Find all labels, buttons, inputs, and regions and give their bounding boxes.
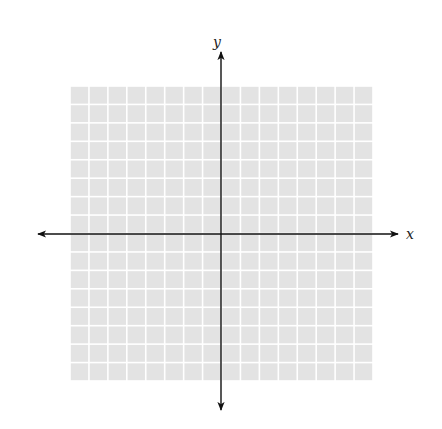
grid-cell [241, 197, 258, 214]
grid-cell [241, 271, 258, 288]
grid-cell [355, 161, 372, 178]
grid-cell [203, 234, 220, 251]
grid-cell [203, 179, 220, 196]
grid-cell [298, 179, 315, 196]
grid-cell [128, 197, 145, 214]
grid-cell [90, 105, 107, 122]
grid-cell [279, 179, 296, 196]
grid-cell [128, 308, 145, 325]
grid-cell [165, 345, 182, 362]
grid-cell [336, 161, 353, 178]
grid-cell [71, 142, 88, 159]
grid-cell [71, 253, 88, 270]
grid-cell [109, 216, 126, 233]
grid-cell [279, 326, 296, 343]
grid-cell [336, 363, 353, 380]
grid-cell [336, 197, 353, 214]
grid-cell [279, 363, 296, 380]
grid-cell [222, 345, 239, 362]
grid-cell [90, 271, 107, 288]
grid-cell [147, 216, 164, 233]
grid-cell [147, 179, 164, 196]
grid-cell [355, 216, 372, 233]
grid-cell [222, 197, 239, 214]
grid-cell [184, 216, 201, 233]
grid-cell [317, 124, 334, 141]
grid-cell [241, 345, 258, 362]
grid-cell [317, 253, 334, 270]
grid-cell [203, 308, 220, 325]
grid-cell [184, 197, 201, 214]
grid-cell [128, 363, 145, 380]
grid-cell [71, 271, 88, 288]
grid-cell [355, 253, 372, 270]
grid-cell [203, 345, 220, 362]
grid-cell [355, 124, 372, 141]
grid-cell [279, 345, 296, 362]
grid-cell [71, 345, 88, 362]
grid-cell [109, 326, 126, 343]
grid-cell [298, 161, 315, 178]
grid-cell [222, 234, 239, 251]
grid-cell [317, 216, 334, 233]
grid-cell [260, 326, 277, 343]
grid-cell [184, 142, 201, 159]
grid-cell [260, 345, 277, 362]
grid-cell [71, 105, 88, 122]
grid-cell [336, 290, 353, 307]
grid-cell [241, 216, 258, 233]
grid-cell [109, 290, 126, 307]
grid-cell [317, 105, 334, 122]
grid-cell [317, 363, 334, 380]
grid-cell [90, 326, 107, 343]
grid-cell [128, 290, 145, 307]
grid-cell [317, 345, 334, 362]
grid-cell [147, 253, 164, 270]
grid-cell [128, 124, 145, 141]
grid-cell [336, 179, 353, 196]
grid-cell [165, 253, 182, 270]
grid-cell [165, 290, 182, 307]
grid-cell [241, 326, 258, 343]
grid-cell [203, 87, 220, 104]
grid-cell [90, 124, 107, 141]
grid-cell [184, 87, 201, 104]
grid-cell [222, 87, 239, 104]
grid-cell [336, 142, 353, 159]
grid-cell [279, 308, 296, 325]
grid-cell [355, 197, 372, 214]
grid-cell [109, 345, 126, 362]
grid-cell [165, 142, 182, 159]
grid-cell [109, 179, 126, 196]
grid-cell [241, 308, 258, 325]
grid-cell [71, 87, 88, 104]
grid-cell [355, 363, 372, 380]
grid-cell [147, 271, 164, 288]
grid-cell [336, 271, 353, 288]
grid-cell [336, 124, 353, 141]
grid-cell [147, 161, 164, 178]
grid-cell [109, 271, 126, 288]
grid-cell [355, 142, 372, 159]
grid-cell [109, 363, 126, 380]
grid-cell [90, 308, 107, 325]
grid-cell [90, 216, 107, 233]
grid-cell [165, 363, 182, 380]
grid-cell [336, 326, 353, 343]
grid-cell [128, 87, 145, 104]
grid-cell [203, 326, 220, 343]
grid-cell [71, 179, 88, 196]
grid-cell [90, 253, 107, 270]
grid-cell [241, 363, 258, 380]
grid-cell [109, 161, 126, 178]
grid-cell [222, 105, 239, 122]
grid-cell [222, 290, 239, 307]
grid-cell [279, 290, 296, 307]
grid-cell [109, 234, 126, 251]
grid-cell [222, 308, 239, 325]
grid-cell [147, 326, 164, 343]
grid-cell [109, 87, 126, 104]
grid-cell [165, 197, 182, 214]
grid-cell [222, 179, 239, 196]
grid-cell [203, 124, 220, 141]
